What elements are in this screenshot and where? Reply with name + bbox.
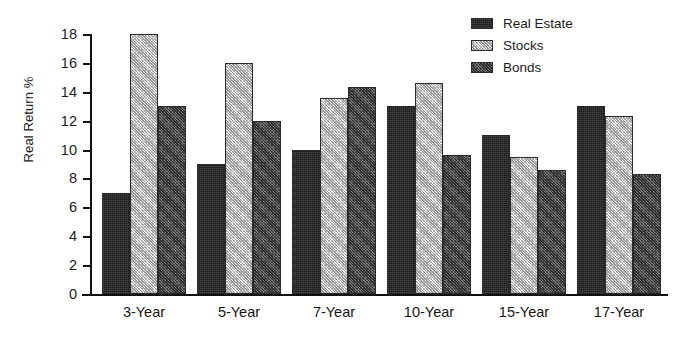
bar — [158, 106, 186, 294]
x-axis-label: 17-Year — [559, 304, 678, 320]
y-axis-tick-label: 10 — [61, 141, 77, 159]
bar — [197, 164, 225, 294]
y-axis-tick: 10 — [83, 150, 92, 152]
bar — [482, 135, 510, 294]
y-axis-tick: 12 — [83, 121, 92, 123]
y-axis-tick: 14 — [83, 92, 92, 94]
y-axis-tick: 16 — [83, 63, 92, 65]
legend-swatch-bonds — [471, 62, 493, 73]
legend-swatch-stocks — [471, 40, 493, 51]
bar — [443, 155, 471, 294]
y-axis-tick-label: 6 — [69, 198, 77, 216]
bar — [102, 193, 130, 294]
legend-item-bonds: Bonds — [471, 58, 641, 77]
legend-label-bonds: Bonds — [503, 60, 541, 75]
bar — [348, 87, 376, 294]
y-axis-tick: 8 — [83, 178, 92, 180]
bar — [577, 106, 605, 294]
bar — [510, 157, 538, 294]
bar-group — [197, 32, 281, 294]
chart-legend: Real Estate Stocks Bonds — [471, 14, 641, 80]
bar — [320, 98, 348, 294]
y-axis-tick: 4 — [83, 236, 92, 238]
y-axis-tick: 18 — [83, 34, 92, 36]
y-axis-tick: 0 — [83, 294, 92, 296]
bar — [387, 106, 415, 294]
legend-item-stocks: Stocks — [471, 36, 641, 55]
y-axis-title: Real Return % — [21, 50, 36, 190]
y-axis-tick-label: 8 — [69, 169, 77, 187]
bar — [538, 170, 566, 294]
legend-item-real-estate: Real Estate — [471, 14, 641, 33]
bar — [605, 116, 633, 294]
y-axis-tick-label: 0 — [69, 285, 77, 303]
bar — [225, 63, 253, 294]
legend-label-real-estate: Real Estate — [503, 16, 573, 31]
bar — [633, 174, 661, 294]
legend-swatch-real-estate — [471, 18, 493, 29]
y-axis-tick-label: 14 — [61, 83, 77, 101]
bar-chart: Real Return % 024681012141618 3-Year5-Ye… — [0, 0, 678, 341]
y-axis-tick-label: 18 — [61, 25, 77, 43]
bar-group — [387, 32, 471, 294]
y-axis-tick-label: 2 — [69, 256, 77, 274]
y-axis-tick-label: 16 — [61, 54, 77, 72]
bar — [292, 150, 320, 294]
y-axis-tick-label: 4 — [69, 227, 77, 245]
y-axis-tick-label: 12 — [61, 112, 77, 130]
y-axis-tick: 6 — [83, 207, 92, 209]
bar — [130, 34, 158, 294]
bar-group — [102, 32, 186, 294]
x-axis-line — [82, 294, 668, 296]
bar — [415, 83, 443, 294]
legend-label-stocks: Stocks — [503, 38, 544, 53]
bar — [253, 121, 281, 294]
y-axis-tick: 2 — [83, 265, 92, 267]
y-axis-line — [90, 36, 92, 296]
bar-group — [292, 32, 376, 294]
